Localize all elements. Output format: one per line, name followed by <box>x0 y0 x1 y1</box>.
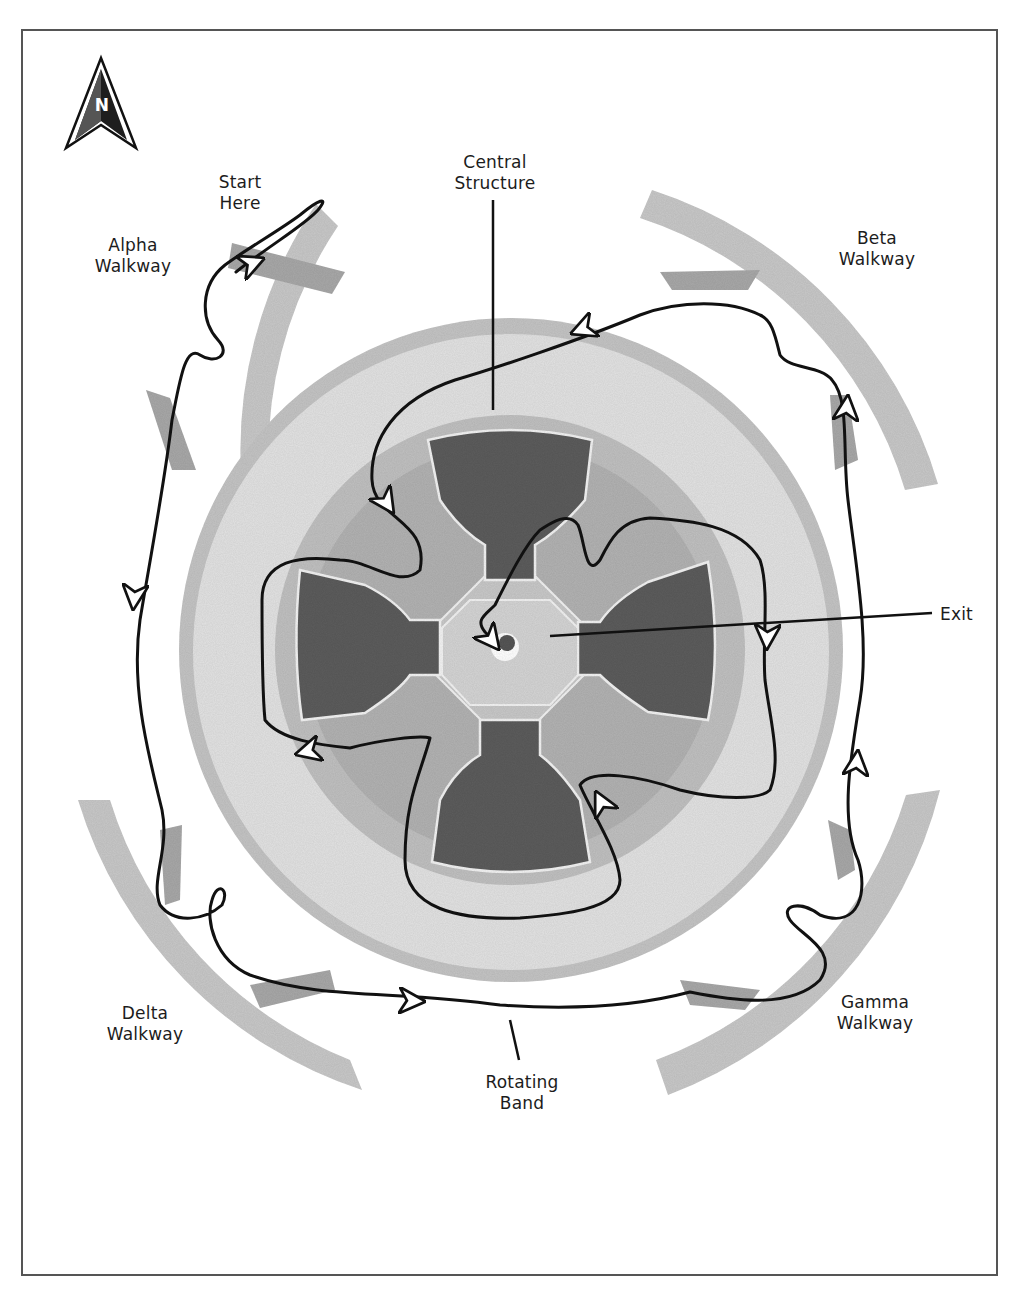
gamma-walkway-label-line1: Gamma <box>815 992 935 1013</box>
gamma-walkway-label: Gamma Walkway <box>815 992 935 1034</box>
beta-walkway-label-line2: Walkway <box>822 249 932 270</box>
alpha-walkway-label-line2: Walkway <box>78 256 188 277</box>
exit-label: Exit <box>940 604 990 625</box>
rotating-band-label-line2: Band <box>462 1093 582 1114</box>
delta-walkway-label-line2: Walkway <box>90 1024 200 1045</box>
start-label: Start Here <box>200 172 280 214</box>
alpha-walkway-label-line1: Alpha <box>78 235 188 256</box>
central-structure-label-line2: Structure <box>440 173 550 194</box>
central-structure-label: Central Structure <box>440 152 550 194</box>
central-structure-label-line1: Central <box>440 152 550 173</box>
compass-letter: N <box>92 95 112 116</box>
start-label-line1: Start <box>200 172 280 193</box>
beta-walkway-label-line1: Beta <box>822 228 932 249</box>
start-label-line2: Here <box>200 193 280 214</box>
rotating-band-label: Rotating Band <box>462 1072 582 1114</box>
beta-walkway-label: Beta Walkway <box>822 228 932 270</box>
gamma-walkway-label-line2: Walkway <box>815 1013 935 1034</box>
delta-walkway-label: Delta Walkway <box>90 1003 200 1045</box>
alpha-walkway-label: Alpha Walkway <box>78 235 188 277</box>
rotating-band-label-line1: Rotating <box>462 1072 582 1093</box>
delta-walkway-label-line1: Delta <box>90 1003 200 1024</box>
